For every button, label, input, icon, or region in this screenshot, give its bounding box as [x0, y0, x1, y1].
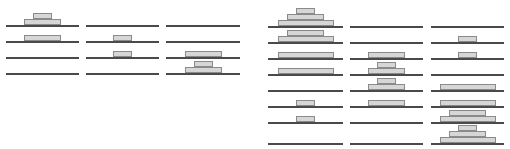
- disk-l: [440, 116, 496, 122]
- peg-base-line: [431, 143, 504, 145]
- peg-base-line: [431, 42, 504, 44]
- disk-s: [458, 36, 477, 42]
- disk-s: [296, 100, 315, 106]
- peg-base-line: [86, 41, 159, 43]
- disk-m: [287, 30, 324, 36]
- disk-m: [368, 100, 405, 106]
- disk-m: [368, 52, 405, 58]
- hanoi-diagram: [0, 0, 510, 149]
- peg-base-line: [431, 58, 504, 60]
- peg-base-line: [350, 106, 423, 108]
- disk-l: [440, 137, 496, 143]
- peg-base-line: [350, 143, 423, 145]
- disk-s: [33, 13, 52, 19]
- peg-base-line: [431, 26, 504, 28]
- peg-base-line: [268, 143, 343, 145]
- disk-s: [113, 51, 132, 57]
- peg-base-line: [6, 57, 79, 59]
- peg-base-line: [166, 57, 240, 59]
- peg-base-line: [350, 42, 423, 44]
- peg-base-line: [86, 57, 159, 59]
- peg-base-line: [431, 122, 504, 124]
- peg-base-line: [350, 122, 423, 124]
- disk-s: [296, 116, 315, 122]
- peg-base-line: [166, 73, 240, 75]
- peg-base-line: [166, 25, 240, 27]
- peg-base-line: [6, 41, 79, 43]
- disk-m: [368, 84, 405, 90]
- disk-m: [287, 14, 324, 20]
- disk-l: [278, 52, 334, 58]
- peg-base-line: [268, 58, 343, 60]
- disk-s: [458, 125, 477, 131]
- peg-base-line: [268, 26, 343, 28]
- peg-base-line: [86, 73, 159, 75]
- disk-l: [278, 36, 334, 42]
- peg-base-line: [350, 90, 423, 92]
- peg-base-line: [350, 58, 423, 60]
- disk-l: [278, 20, 334, 26]
- disk-s: [194, 61, 213, 67]
- peg-base-line: [86, 25, 159, 27]
- disk-l: [440, 84, 496, 90]
- peg-base-line: [431, 106, 504, 108]
- disk-s: [113, 35, 132, 41]
- peg-base-line: [431, 74, 504, 76]
- peg-base-line: [350, 26, 423, 28]
- disk-s: [377, 78, 396, 84]
- disk-m: [368, 68, 405, 74]
- peg-base-line: [166, 41, 240, 43]
- disk-s: [458, 52, 477, 58]
- peg-base-line: [268, 42, 343, 44]
- disk-l: [185, 51, 222, 57]
- peg-base-line: [268, 74, 343, 76]
- peg-base-line: [268, 90, 343, 92]
- disk-m: [449, 131, 486, 137]
- peg-base-line: [268, 106, 343, 108]
- disk-s: [377, 62, 396, 68]
- disk-l: [278, 68, 334, 74]
- disk-l: [185, 67, 222, 73]
- disk-m: [449, 110, 486, 116]
- disk-l: [24, 19, 61, 25]
- peg-base-line: [431, 90, 504, 92]
- peg-base-line: [268, 122, 343, 124]
- peg-base-line: [350, 74, 423, 76]
- disk-s: [296, 8, 315, 14]
- peg-base-line: [6, 73, 79, 75]
- disk-l: [24, 35, 61, 41]
- disk-l: [440, 100, 496, 106]
- peg-base-line: [6, 25, 79, 27]
